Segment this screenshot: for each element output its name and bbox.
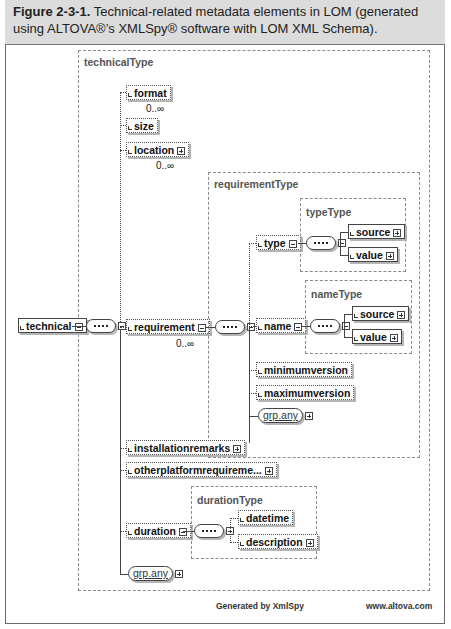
element-size[interactable]: size <box>126 118 158 133</box>
connector <box>344 314 345 338</box>
collapse-icon[interactable] <box>75 323 83 331</box>
element-type-value[interactable]: value <box>348 247 398 262</box>
sequence-compositor[interactable] <box>215 320 245 334</box>
connector <box>249 370 256 371</box>
cardinality-requirement: 0..∞ <box>176 338 194 349</box>
connector <box>249 393 256 394</box>
connector <box>230 518 231 543</box>
technicaltype-label: technicalType <box>84 56 153 68</box>
element-otherplatformrequirements[interactable]: otherplatformrequireme... <box>126 462 277 477</box>
nametype-label: nameType <box>311 288 362 300</box>
connector <box>230 518 238 519</box>
connector <box>249 327 250 443</box>
element-name-source[interactable]: source <box>352 306 409 321</box>
expand-icon[interactable] <box>390 334 398 342</box>
durationtype-label: durationType <box>197 494 263 506</box>
element-requirement[interactable]: requirement <box>126 319 210 334</box>
dotted-trunk <box>120 92 121 322</box>
element-name-value[interactable]: value <box>352 329 402 344</box>
solid-trunk <box>120 330 121 574</box>
group-any-requirement[interactable]: grp.any <box>258 408 303 423</box>
figure-caption: Figure 2-3-1. Technical-related metadata… <box>5 0 445 45</box>
collapse-icon[interactable] <box>289 240 297 248</box>
collapse-icon[interactable] <box>294 323 302 331</box>
expand-icon[interactable] <box>397 311 405 319</box>
cardinality-format: 0..∞ <box>146 103 164 114</box>
connector <box>249 326 256 327</box>
typetype-label: typeType <box>306 206 351 218</box>
connector <box>72 326 86 327</box>
expand-icon[interactable] <box>177 147 185 155</box>
element-type-source[interactable]: source <box>348 224 405 239</box>
element-maximumversion[interactable]: maximumversion <box>256 385 354 400</box>
expand-icon[interactable] <box>386 252 394 260</box>
connector <box>120 574 128 575</box>
group-any-technical[interactable]: grp.any <box>128 566 173 581</box>
element-minimumversion[interactable]: minimumversion <box>256 362 352 377</box>
element-format[interactable]: format <box>126 85 171 100</box>
expand-icon[interactable] <box>393 229 401 237</box>
element-location[interactable]: location <box>126 142 189 157</box>
cardinality-location: 0..∞ <box>156 160 174 171</box>
element-duration[interactable]: duration <box>126 523 191 538</box>
collapse-icon[interactable] <box>198 324 206 332</box>
expand-icon[interactable] <box>175 570 183 578</box>
expand-icon[interactable] <box>233 445 241 453</box>
connector <box>230 542 238 543</box>
sequence-compositor[interactable] <box>194 524 224 538</box>
altova-link[interactable]: www.altova.com <box>366 601 432 611</box>
sequence-compositor[interactable] <box>306 236 336 250</box>
element-installationremarks[interactable]: installationremarks <box>126 440 245 455</box>
connector <box>249 416 258 417</box>
connector <box>340 232 348 233</box>
connector <box>340 255 348 256</box>
connector <box>344 337 352 338</box>
sequence-compositor[interactable] <box>310 319 340 333</box>
element-type[interactable]: type <box>256 235 301 250</box>
collapse-icon[interactable] <box>179 528 187 536</box>
figure-label: Figure 2-3-1. <box>13 4 90 19</box>
generated-by-text: Generated by XmlSpy <box>216 601 304 611</box>
element-description[interactable]: description <box>238 534 318 549</box>
sequence-compositor[interactable] <box>86 319 116 333</box>
element-name[interactable]: name <box>256 318 306 333</box>
expand-icon[interactable] <box>305 412 313 420</box>
connector <box>249 243 256 244</box>
connector <box>340 232 341 256</box>
connector <box>183 531 194 532</box>
connector <box>205 327 215 328</box>
connector <box>344 314 352 315</box>
connector <box>249 243 250 327</box>
element-datetime[interactable]: datetime <box>238 510 293 525</box>
expand-icon[interactable] <box>306 539 314 547</box>
requirementtype-label: requirementType <box>214 178 298 190</box>
expand-icon[interactable] <box>265 467 273 475</box>
compositor-toggle-icon[interactable] <box>118 322 126 330</box>
